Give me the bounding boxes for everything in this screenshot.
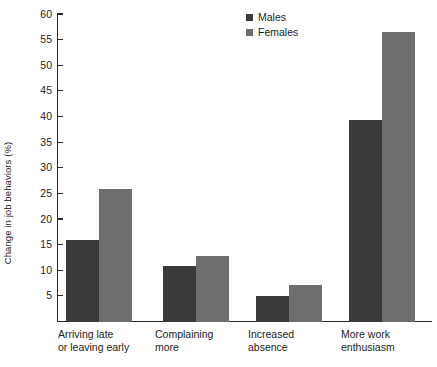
bars-layer [0,0,437,367]
bar [66,240,99,322]
bar [196,256,229,322]
x-axis-category-label: Complaining more [155,328,251,353]
bar [256,296,289,322]
bar-chart: Change in job behaviors (%) 510152025303… [0,0,437,367]
bar [349,120,382,322]
bar [99,189,132,322]
bar [382,32,415,322]
x-axis-category-label: Increased absence [248,328,344,353]
bar [289,285,322,322]
x-axis-category-label: More work enthusiasm [341,328,437,353]
x-axis-category-label: Arriving late or leaving early [58,328,154,353]
bar [163,266,196,322]
